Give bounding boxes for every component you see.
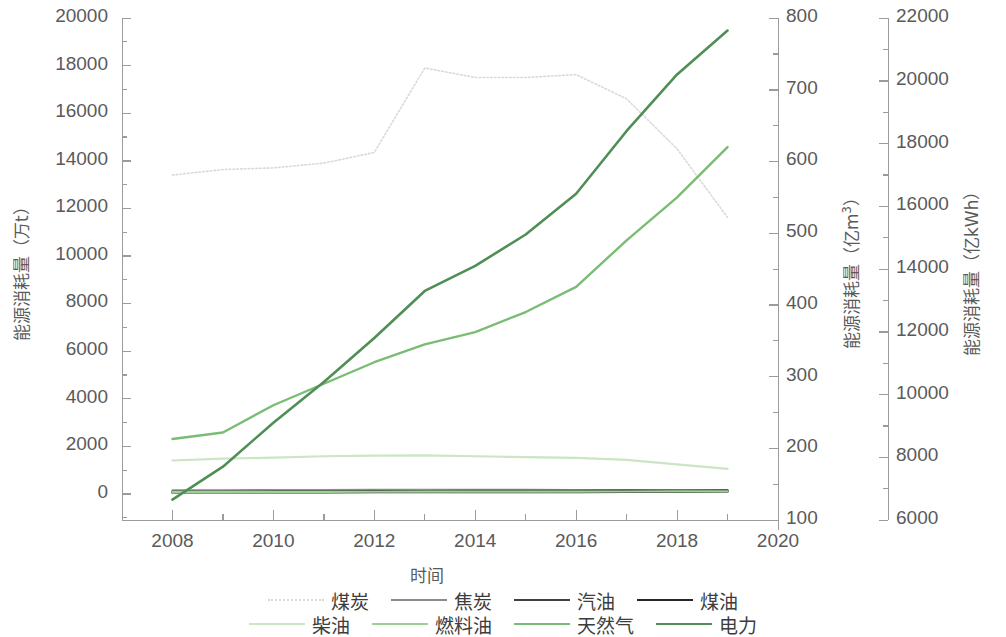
axis-major-tick <box>769 18 778 19</box>
axis-minor-tick <box>122 89 127 90</box>
axis-minor-tick <box>122 517 127 518</box>
axis-major-tick <box>769 448 778 449</box>
axis-major-tick <box>879 80 888 81</box>
axis-major-tick <box>122 398 131 399</box>
axis-minor-tick <box>883 174 888 175</box>
axis-minor-tick <box>122 136 127 137</box>
axis-major-tick <box>879 143 888 144</box>
legend-item-柴油[interactable]: 柴油 <box>249 611 350 637</box>
y-axis-tick-label: 0 <box>52 481 108 503</box>
y-axis-tick-label: 20000 <box>896 68 976 90</box>
axis-minor-tick <box>122 279 127 280</box>
axis-minor-tick <box>122 470 127 471</box>
legend-swatch-icon <box>391 599 447 601</box>
x-axis-tick-label: 2016 <box>531 530 621 552</box>
axis-major-tick <box>879 18 888 19</box>
chart-canvas: 0200040006000800010000120001400016000180… <box>0 0 1006 637</box>
axis-minor-tick <box>773 53 778 54</box>
legend-label: 天然气 <box>577 611 634 637</box>
x-axis-tick-label: 2018 <box>632 530 722 552</box>
axis-major-tick <box>122 303 131 304</box>
axis-minor-tick <box>883 112 888 113</box>
legend-row: 柴油燃料油天然气电力 <box>0 612 1006 636</box>
x-axis-minor-tick <box>727 514 728 520</box>
x-axis-major-tick <box>273 510 274 520</box>
legend-item-电力[interactable]: 电力 <box>656 611 757 637</box>
axis-major-tick <box>879 331 888 332</box>
legend-item-煤油[interactable]: 煤油 <box>637 587 738 614</box>
legend-item-焦炭[interactable]: 焦炭 <box>391 587 492 614</box>
x-axis-end-tick <box>778 510 779 530</box>
axis-spine-x <box>122 520 778 521</box>
axis-minor-tick <box>122 232 127 233</box>
axis-minor-tick <box>122 41 127 42</box>
axis-major-tick <box>769 89 778 90</box>
axis-major-tick <box>769 304 778 305</box>
x-axis-major-tick <box>475 510 476 520</box>
y-axis-tick-label: 16000 <box>52 100 108 122</box>
y-axis-tick-label: 8000 <box>52 290 108 312</box>
y-axis-tick-label: 6000 <box>896 507 976 529</box>
legend-row: 煤炭焦炭汽油煤油 <box>0 588 1006 612</box>
legend-item-燃料油[interactable]: 燃料油 <box>372 611 492 637</box>
legend-swatch-icon <box>514 599 570 601</box>
y-axis-tick-label: 14000 <box>52 148 108 170</box>
axis-minor-tick <box>773 269 778 270</box>
x-axis-minor-tick <box>323 514 324 520</box>
axis-minor-tick <box>773 412 778 413</box>
legend-swatch-icon <box>268 599 324 601</box>
y-axis-tick-label: 18000 <box>896 131 976 153</box>
axis-major-tick <box>122 493 131 494</box>
axis-major-tick <box>879 520 888 521</box>
axis-major-tick <box>122 18 131 19</box>
y-axis-tick-label: 22000 <box>896 5 976 27</box>
legend-label: 煤炭 <box>331 587 369 614</box>
y-axis-tick-label: 800 <box>786 5 866 27</box>
y-axis-tick-label: 6000 <box>52 338 108 360</box>
series-line-7 <box>172 147 727 439</box>
x-axis-tick-label: 2010 <box>228 530 318 552</box>
legend-swatch-icon <box>249 623 305 625</box>
axis-minor-tick <box>883 425 888 426</box>
axis-minor-tick <box>122 422 127 423</box>
y-axis-tick-label: 10000 <box>896 382 976 404</box>
x-axis-tick-label: 2014 <box>430 530 520 552</box>
legend-item-煤炭[interactable]: 煤炭 <box>268 587 369 614</box>
axis-minor-tick <box>883 237 888 238</box>
x-axis-minor-tick <box>222 514 223 520</box>
y-axis-tick-label: 10000 <box>52 243 108 265</box>
series-line-1 <box>172 68 727 217</box>
axis-major-tick <box>769 161 778 162</box>
axis-minor-tick <box>773 197 778 198</box>
y-axis-tick-label: 18000 <box>52 53 108 75</box>
legend: 煤炭焦炭汽油煤油 柴油燃料油天然气电力 <box>0 588 1006 636</box>
axis-major-tick <box>879 269 888 270</box>
series-line-6 <box>172 491 727 492</box>
x-axis-major-tick <box>677 510 678 520</box>
x-axis-title: 时间 <box>410 562 444 587</box>
legend-label: 燃料油 <box>435 611 492 637</box>
x-axis-major-tick <box>374 510 375 520</box>
y-axis-tick-label: 4000 <box>52 386 108 408</box>
axis-major-tick <box>122 208 131 209</box>
y-axis-left-title: 能源消耗量（万t） <box>8 198 33 341</box>
axis-minor-tick <box>883 49 888 50</box>
y-axis-tick-label: 300 <box>786 364 866 386</box>
legend-item-汽油[interactable]: 汽油 <box>514 587 615 614</box>
axis-major-tick <box>122 160 131 161</box>
x-axis-tick-label: 2008 <box>127 530 217 552</box>
y-axis-right1-title: 能源消耗量（亿m3） <box>838 189 863 349</box>
legend-label: 煤油 <box>700 587 738 614</box>
axis-minor-tick <box>883 363 888 364</box>
legend-swatch-icon <box>372 623 428 625</box>
axis-minor-tick <box>773 484 778 485</box>
y-axis-tick-label: 20000 <box>52 5 108 27</box>
y-axis-tick-label: 12000 <box>52 195 108 217</box>
axis-major-tick <box>122 446 131 447</box>
legend-item-天然气[interactable]: 天然气 <box>514 611 634 637</box>
x-axis-tick-label: 2012 <box>329 530 419 552</box>
legend-swatch-icon <box>514 623 570 625</box>
legend-swatch-icon <box>637 599 693 601</box>
legend-swatch-icon <box>656 623 712 625</box>
x-axis-tick-label: 2020 <box>733 530 823 552</box>
